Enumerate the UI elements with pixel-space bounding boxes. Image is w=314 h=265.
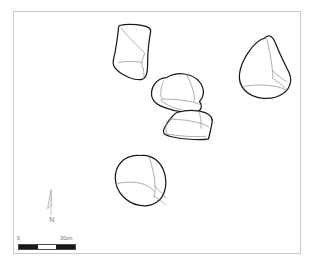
site-plan-figure: N 0 30cm bbox=[0, 0, 314, 265]
north-arrow-label: N bbox=[46, 216, 58, 223]
stone-center-outline bbox=[151, 74, 203, 113]
feature-stone-center bbox=[151, 74, 203, 113]
north-arrow-icon bbox=[48, 190, 51, 216]
feature-stone-right bbox=[239, 36, 290, 99]
feature-stone-lower-center bbox=[163, 110, 212, 139]
stone-bottom-outline bbox=[115, 155, 166, 205]
scale-bar-segment bbox=[19, 245, 38, 249]
feature-stone-top-left bbox=[113, 24, 151, 79]
plan-drawing bbox=[0, 0, 314, 265]
scale-bar bbox=[18, 244, 76, 250]
scale-bar-segment bbox=[38, 245, 57, 249]
stone-top-left-outline bbox=[113, 24, 151, 79]
scale-bar-max-label: 30cm bbox=[60, 235, 73, 241]
north-arrow-head bbox=[48, 190, 51, 209]
stone-right-outline bbox=[239, 36, 290, 99]
feature-stone-bottom bbox=[115, 155, 166, 205]
scale-bar-segment bbox=[56, 245, 75, 249]
scale-bar-min-label: 0 bbox=[17, 235, 20, 241]
